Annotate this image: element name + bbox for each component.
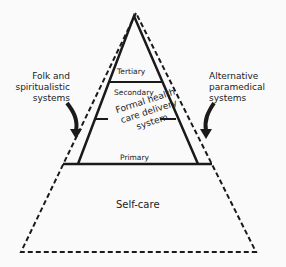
right-arrow-icon [205,103,214,131]
self-care-label: Self-care [116,199,160,210]
left-arrow-icon [67,103,77,131]
pyramid-diagram [0,0,286,267]
right-arrowhead-icon [200,129,212,139]
primary-label: Primary [120,152,149,163]
left-arrowhead-icon [70,129,82,139]
alternative-systems-label: Alternative paramedical systems [209,71,279,104]
tertiary-label: Tertiary [117,66,145,77]
folk-systems-label: Folk and spiritualistic systems [14,71,70,104]
